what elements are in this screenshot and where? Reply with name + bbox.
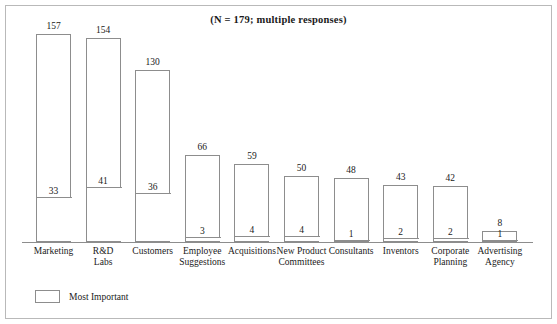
bar-segment-most-important (87, 187, 122, 241)
legend-label-most-important: Most Important (69, 292, 128, 302)
bar-total (36, 34, 71, 242)
plot-area: 15733Marketing15441R&DLabs13036Customers… (0, 0, 557, 324)
bar-segment-label: 1 (470, 229, 529, 239)
bar-segment-most-important (235, 236, 270, 241)
bar-total-label: 130 (123, 57, 182, 67)
bar-total-label: 59 (222, 151, 281, 161)
x-axis-line (22, 242, 533, 243)
bar-segment-most-important (37, 197, 72, 241)
bar-segment-most-important (434, 238, 469, 241)
bar-total-label: 154 (74, 25, 133, 35)
legend-swatch-most-important (35, 290, 60, 303)
bar-segment-label: 36 (123, 182, 182, 192)
bar-total (135, 70, 170, 242)
bar-segment-most-important (335, 240, 370, 241)
legend: Most Important (35, 290, 128, 303)
bar-segment-most-important (384, 238, 419, 241)
bar-total (86, 38, 121, 242)
bar-segment-label: 33 (24, 186, 83, 196)
bar-segment-most-important (186, 237, 221, 241)
bar-segment-most-important (285, 236, 320, 241)
chart-container: (N = 179; multiple responses) 15733Marke… (0, 0, 557, 324)
bar-segment-most-important (483, 240, 518, 241)
bar-segment-most-important (136, 193, 171, 241)
bar-total-label: 8 (470, 218, 529, 228)
x-axis-category-label: AdvertisingAgency (468, 246, 531, 268)
bar-total-label: 42 (421, 173, 480, 183)
